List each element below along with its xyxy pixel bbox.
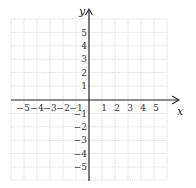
x-tick: 3: [127, 103, 133, 113]
y-tick: −2: [74, 122, 87, 132]
coordinate-plane: x y −5 −4 −3 −2 −1 1 2 3 4 5 5 4 3 2 1 −…: [0, 0, 196, 188]
x-tick: −5: [16, 103, 30, 113]
x-tick: −4: [30, 103, 44, 113]
y-tick: 1: [81, 81, 87, 91]
x-tick: 2: [114, 103, 120, 113]
y-tick: −3: [74, 135, 88, 145]
y-tick: 3: [81, 54, 87, 64]
x-axis-label: x: [177, 105, 184, 118]
x-tick: −2: [56, 103, 69, 113]
y-tick: −4: [74, 149, 88, 159]
y-tick: −5: [74, 162, 88, 172]
x-tick: 1: [101, 103, 107, 113]
x-tick: 5: [153, 103, 159, 113]
x-tick: −3: [43, 103, 57, 113]
y-tick: 4: [81, 41, 87, 51]
y-tick: −1: [74, 109, 87, 119]
x-tick: 4: [140, 103, 146, 113]
y-tick: 2: [81, 68, 87, 78]
y-axis-label: y: [78, 5, 86, 18]
x-tick-labels: −5 −4 −3 −2 −1 1 2 3 4 5: [16, 103, 159, 113]
y-tick: 5: [81, 28, 87, 38]
